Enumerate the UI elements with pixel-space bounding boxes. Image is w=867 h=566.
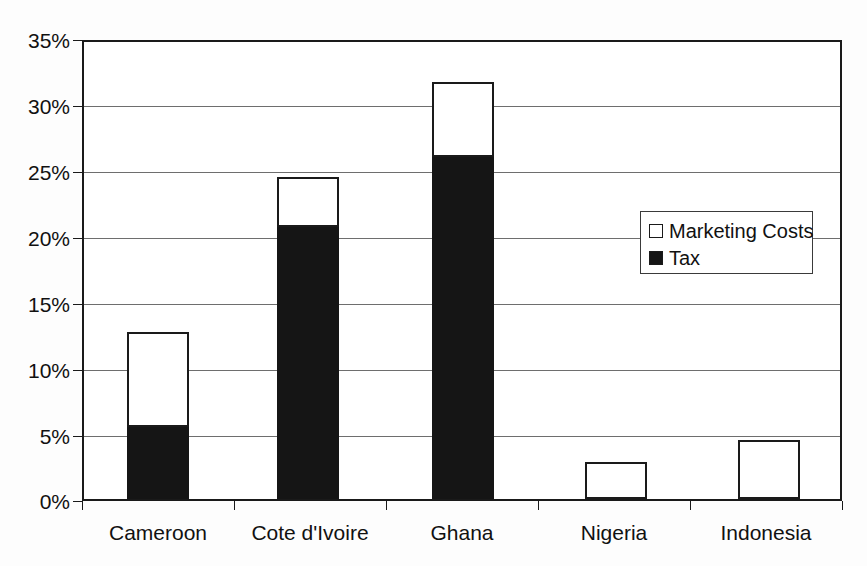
legend-label: Tax: [669, 248, 700, 268]
y-tick-mark: [73, 501, 82, 502]
x-tick-mark: [538, 501, 539, 510]
legend-label: Marketing Costs: [669, 221, 814, 241]
bar-nigeria[interactable]: [585, 462, 647, 499]
y-tick-mark: [73, 172, 82, 173]
filled-square-icon: [649, 251, 663, 265]
bar-cote-divoire[interactable]: [277, 177, 339, 499]
x-tick-mark: [82, 501, 83, 510]
legend: Marketing Costs Tax: [640, 211, 813, 274]
bar-segment-marketing-costs[interactable]: [277, 177, 339, 227]
stacked-bar-chart: 35% 30% 25% 20% 15% 10% 5% 0%: [0, 0, 867, 566]
x-axis: Cameroon Cote d'Ivoire Ghana Nigeria Ind…: [82, 512, 842, 552]
legend-item-marketing-costs[interactable]: Marketing Costs: [649, 217, 812, 244]
x-tick-label-cameroon: Cameroon: [109, 522, 207, 543]
hollow-square-icon: [649, 224, 663, 238]
bar-segment-marketing-costs[interactable]: [432, 82, 494, 157]
y-axis: 35% 30% 25% 20% 15% 10% 5% 0%: [0, 0, 82, 566]
bar-ghana[interactable]: [432, 82, 494, 499]
bar-indonesia[interactable]: [738, 440, 800, 499]
bar-segment-tax[interactable]: [432, 157, 494, 499]
y-tick-label: 20%: [28, 228, 70, 249]
y-tick-label: 10%: [28, 360, 70, 381]
y-tick-mark: [73, 40, 82, 41]
x-tick-mark: [690, 501, 691, 510]
x-tick-mark: [386, 501, 387, 510]
bar-segment-marketing-costs[interactable]: [585, 462, 647, 499]
x-tick-mark: [234, 501, 235, 510]
y-tick-mark: [73, 106, 82, 107]
y-tick-mark: [73, 238, 82, 239]
bar-segment-tax[interactable]: [277, 227, 339, 499]
y-tick-label: 30%: [28, 96, 70, 117]
y-tick-label: 5%: [40, 426, 70, 447]
y-tick-label: 15%: [28, 294, 70, 315]
y-tick-mark: [73, 436, 82, 437]
bar-segment-marketing-costs[interactable]: [127, 332, 189, 427]
x-tick-label-nigeria: Nigeria: [581, 522, 648, 543]
y-tick-mark: [73, 370, 82, 371]
y-tick-mark: [73, 304, 82, 305]
legend-item-tax[interactable]: Tax: [649, 244, 812, 271]
x-tick-mark: [842, 501, 843, 510]
plot-area: Marketing Costs Tax: [82, 40, 842, 501]
x-tick-label-cote-divoire: Cote d'Ivoire: [251, 522, 368, 543]
y-tick-label: 35%: [28, 30, 70, 51]
y-tick-label: 25%: [28, 162, 70, 183]
bar-cameroon[interactable]: [127, 332, 189, 499]
bar-segment-tax[interactable]: [127, 427, 189, 499]
bar-segment-marketing-costs[interactable]: [738, 440, 800, 499]
x-tick-label-indonesia: Indonesia: [720, 522, 811, 543]
y-tick-label: 0%: [40, 491, 70, 512]
x-tick-label-ghana: Ghana: [430, 522, 493, 543]
